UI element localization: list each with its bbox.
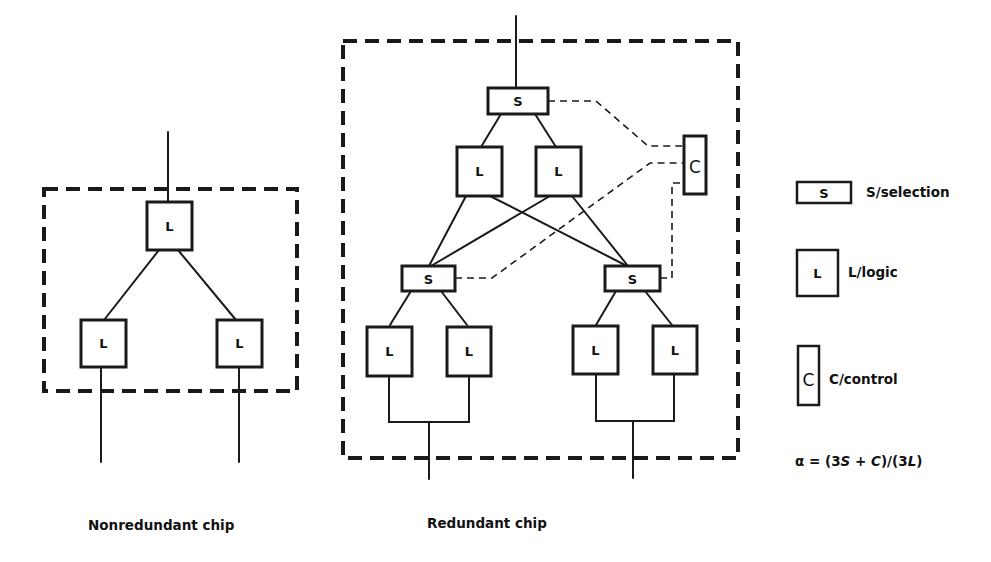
logic-block-lower-4: L [653,326,697,374]
selector-block-right: S [605,266,660,291]
alpha-formula: α = (3S + C)/(3L) [795,453,922,469]
output-merge-left [389,376,469,422]
formula-open: (3 [825,453,841,469]
control-line-right-s [660,183,684,278]
block-label: S [424,272,433,287]
nonredundant-wire-left [104,250,159,320]
selector-block-left: S [402,266,455,291]
logic-block-lower-3: L [573,326,618,374]
wire-top-s-to-right-l [535,114,556,147]
wire-left-s-to-l1 [390,291,411,325]
block-label: L [465,344,473,359]
redundant-chip-caption: Redundant chip [427,515,547,531]
wire-ul-to-right-s [490,196,627,266]
block-label: L [475,164,483,179]
control-block: C [684,136,706,194]
block-label: L [385,344,393,359]
formula-lhs: α = [795,453,825,469]
block-label: L [99,336,107,351]
block-label: L [235,336,243,351]
selector-block-top: S [488,88,548,114]
nonredundant-wire-right [178,250,236,320]
legend-control-text: C/control [829,371,898,387]
nonredundant-logic-block-right: L [217,320,262,367]
formula-close: ) [916,453,922,469]
block-label: S [628,272,637,287]
nonredundant-chip-caption: Nonredundant chip [88,517,234,533]
legend-symbol-label: L [813,266,821,281]
legend-symbol-label: C [803,370,815,390]
block-label: S [513,94,522,109]
block-label: C [689,157,701,177]
wire-top-s-to-left-l [481,114,501,147]
block-label: L [671,343,679,358]
legend-selection-symbol: S [797,182,851,203]
logic-block-upper-right: L [536,147,581,196]
formula-c: C [871,453,881,469]
block-label: L [591,343,599,358]
wire-right-s-to-l3 [596,291,616,325]
control-line-top-s [548,101,684,146]
block-label: L [165,219,173,234]
nonredundant-logic-block-top: L [147,202,192,250]
wire-left-s-to-l2 [441,291,467,325]
nonredundant-chip: L L L [44,132,297,462]
nonredundant-logic-block-left: L [81,320,126,367]
legend-logic-symbol: L [797,250,838,296]
logic-block-lower-1: L [367,327,412,376]
redundant-chip: S L L C S S L L [343,16,738,479]
wire-ur-to-left-s [431,196,550,266]
legend-symbol-label: S [819,186,828,201]
formula-l: L [908,453,917,469]
block-label: L [554,164,562,179]
legend-control-symbol: C [798,346,819,405]
formula-plus: + [850,453,871,469]
output-merge-right [596,374,674,421]
redundancy-diagram: L L L [0,0,991,562]
logic-block-lower-2: L [447,327,491,376]
legend-logic-text: L/logic [848,264,898,280]
wire-ur-to-right-s [572,196,628,266]
logic-block-upper-left: L [457,147,502,196]
legend-selection-text: S/selection [866,184,950,200]
wire-right-s-to-l4 [645,291,672,325]
formula-s: S [841,453,851,469]
formula-mid: )/(3 [881,453,908,469]
